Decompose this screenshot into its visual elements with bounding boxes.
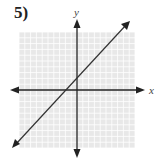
y-axis-up-arrow-icon bbox=[74, 19, 81, 28]
coordinate-plane: x y bbox=[0, 0, 164, 163]
x-axis-label: x bbox=[148, 84, 154, 96]
y-axis-label: y bbox=[73, 6, 79, 18]
x-axis-left-arrow-icon bbox=[10, 87, 19, 94]
x-axis-right-arrow-icon bbox=[136, 87, 145, 94]
y-axis-down-arrow-icon bbox=[74, 149, 81, 158]
